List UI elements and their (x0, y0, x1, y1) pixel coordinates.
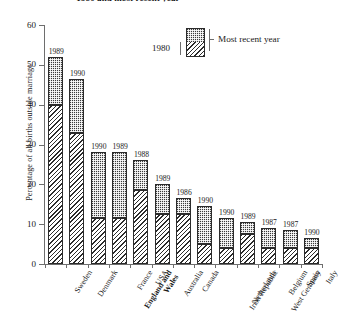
x-axis-tick (66, 264, 67, 268)
x-axis-tick (109, 264, 110, 268)
bar-segment-1980 (155, 214, 170, 264)
bar-group[interactable] (304, 238, 319, 264)
x-axis-tick (45, 264, 46, 268)
y-axis-tick-label: 40 (0, 100, 36, 109)
bar-segment-most-recent-year (133, 160, 148, 190)
bar-year-label: 1990 (70, 70, 85, 78)
bar-segment-most-recent-year (304, 238, 319, 248)
bar-segment-1980 (240, 234, 255, 264)
bar-segment-1980 (283, 248, 298, 264)
bar-year-label: 1989 (240, 213, 255, 221)
bar-segment-1980 (48, 105, 63, 264)
y-axis-tick-label: 10 (0, 220, 36, 229)
x-axis-category-label: Italy (325, 269, 340, 286)
x-axis-tick (152, 264, 153, 268)
y-axis-tick-label: 50 (0, 60, 36, 69)
x-axis-tick (173, 264, 174, 268)
x-axis-category-label: Netherlands (250, 269, 278, 306)
chart-title: 1980 and most recent year (38, 0, 218, 2)
bar-year-label: 1989 (113, 143, 128, 151)
bar-segment-1980 (133, 190, 148, 264)
bar-segment-most-recent-year (69, 79, 84, 133)
bar-year-label: 1989 (49, 48, 64, 56)
x-axis-tick (88, 264, 89, 268)
y-axis-tick-label: 60 (0, 21, 36, 30)
x-axis-tick (215, 264, 216, 268)
bar-group[interactable] (91, 152, 106, 264)
bar-year-label: 1990 (219, 209, 234, 217)
bar-group[interactable] (219, 218, 234, 264)
bar-group[interactable] (133, 160, 148, 264)
bar-segment-most-recent-year (240, 222, 255, 234)
bar-segment-1980 (304, 248, 319, 264)
y-axis-tick-label: 30 (0, 140, 36, 149)
bar-group[interactable] (240, 222, 255, 264)
bar-segment-1980 (261, 248, 276, 264)
bar-year-label: 1987 (262, 219, 277, 227)
x-axis-tick (322, 264, 323, 268)
bar-segment-most-recent-year (112, 152, 127, 218)
bar-segment-most-recent-year (91, 152, 106, 218)
bar-segment-1980 (69, 133, 84, 264)
bar-year-label: 1990 (198, 197, 213, 205)
bar-group[interactable] (176, 198, 191, 264)
bar-segment-1980 (219, 248, 234, 264)
bar-year-label: 1986 (177, 189, 192, 197)
x-axis-tick (258, 264, 259, 268)
bar-segment-most-recent-year (261, 228, 276, 248)
bar-year-label: 1990 (91, 143, 106, 151)
y-axis-tick-label: 0 (0, 260, 36, 269)
bar-year-label: 1990 (304, 229, 319, 237)
bar-group[interactable] (155, 184, 170, 264)
x-axis-category-label: Sweden (74, 269, 95, 295)
bar-segment-1980 (176, 214, 191, 264)
bar-year-label: 1987 (283, 221, 298, 229)
plot-area: 1989199019901989198819891986199019901989… (45, 25, 322, 264)
bar-group[interactable] (48, 57, 63, 264)
bar-segment-most-recent-year (176, 198, 191, 214)
x-axis-tick (279, 264, 280, 268)
bar-segment-most-recent-year (197, 206, 212, 244)
bar-group[interactable] (197, 206, 212, 264)
x-axis-tick (237, 264, 238, 268)
bar-segment-most-recent-year (283, 230, 298, 248)
bar-segment-1980 (91, 218, 106, 264)
bar-group[interactable] (69, 79, 84, 264)
bar-group[interactable] (112, 152, 127, 264)
bar-segment-most-recent-year (48, 57, 63, 105)
x-axis-tick (130, 264, 131, 268)
bar-group[interactable] (283, 230, 298, 264)
x-axis-category-label: Denmark (97, 269, 120, 299)
bar-segment-1980 (112, 218, 127, 264)
y-axis-tick-label: 20 (0, 180, 36, 189)
bar-year-label: 1988 (134, 151, 149, 159)
bar-group[interactable] (261, 228, 276, 264)
bar-year-label: 1989 (155, 175, 170, 183)
x-axis-tick (194, 264, 195, 268)
bar-segment-1980 (197, 244, 212, 264)
bar-segment-most-recent-year (155, 184, 170, 214)
x-axis-category-label: Australia (182, 269, 205, 298)
bar-segment-most-recent-year (219, 218, 234, 248)
